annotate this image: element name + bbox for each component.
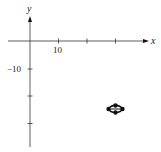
data-points xyxy=(106,103,124,114)
x-axis-arrow-icon xyxy=(143,39,149,43)
y-axis-label: y xyxy=(26,3,32,14)
scatter-plot: x y 10 −10 xyxy=(0,0,161,152)
y-tick-label-neg10: −10 xyxy=(7,64,22,74)
x-axis-label: x xyxy=(150,35,156,46)
data-point xyxy=(106,107,110,111)
data-point xyxy=(120,107,124,111)
y-axis-arrow-icon xyxy=(28,16,32,22)
data-point xyxy=(113,103,117,107)
data-point xyxy=(113,110,117,114)
x-tick-label-10: 10 xyxy=(53,45,63,55)
